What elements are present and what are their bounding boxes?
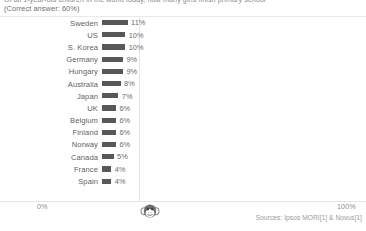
bar-track: 8%: [102, 78, 334, 90]
bar-track: 6%: [102, 102, 334, 114]
bar-rows: Sweden11%US10%S. Korea10%Germany9%Hungar…: [0, 17, 366, 188]
bar-fill: [102, 44, 125, 49]
question-header: Of all 1-year-old children in the world …: [4, 0, 362, 13]
bar-row: Norway6%: [0, 139, 366, 151]
bar-fill: [102, 69, 123, 74]
bar-category-label: Japan: [0, 92, 102, 101]
bar-row: Germany9%: [0, 54, 366, 66]
correct-answer-text: (Correct answer: 60%): [4, 4, 362, 13]
x-axis-tick-min: 0%: [37, 202, 48, 211]
bar-fill: [102, 105, 116, 110]
bar-row: Hungary9%: [0, 66, 366, 78]
x-axis-tick-max: 100%: [337, 202, 356, 211]
bar-value-label: 7%: [122, 92, 133, 101]
bar-value-label: 5%: [117, 152, 128, 161]
bar-track: 4%: [102, 175, 334, 187]
bar-row: Belgium6%: [0, 115, 366, 127]
x-axis-line: [0, 201, 366, 202]
bar-value-label: 11%: [131, 18, 145, 27]
bar-track: 10%: [102, 29, 334, 41]
bar-track: 7%: [102, 90, 334, 102]
bar-track: 6%: [102, 127, 334, 139]
bar-track: 6%: [102, 115, 334, 127]
bar-row: S. Korea10%: [0, 41, 366, 53]
bar-fill: [102, 130, 116, 135]
bar-category-label: Finland: [0, 128, 102, 137]
bar-row: Japan7%: [0, 90, 366, 102]
bar-fill: [102, 179, 111, 184]
bar-category-label: Hungary: [0, 67, 102, 76]
bar-track: 10%: [102, 41, 334, 53]
bar-category-label: Australia: [0, 80, 102, 89]
bar-fill: [102, 81, 121, 86]
bar-category-label: US: [0, 31, 102, 40]
bar-track: 9%: [102, 66, 334, 78]
bar-value-label: 4%: [115, 177, 126, 186]
bar-category-label: Sweden: [0, 19, 102, 28]
bar-fill: [102, 32, 125, 37]
bar-fill: [102, 57, 123, 62]
bar-track: 6%: [102, 139, 334, 151]
bar-category-label: Germany: [0, 55, 102, 64]
bar-track: 9%: [102, 54, 334, 66]
bar-value-label: 4%: [115, 165, 126, 174]
bar-fill: [102, 93, 118, 98]
bar-category-label: S. Korea: [0, 43, 102, 52]
bar-row: Australia8%: [0, 78, 366, 90]
bar-row: Canada5%: [0, 151, 366, 163]
bar-category-label: Spain: [0, 177, 102, 186]
bar-track: 11%: [102, 17, 334, 29]
bar-fill: [102, 166, 111, 171]
bar-category-label: Norway: [0, 140, 102, 149]
bar-value-label: 10%: [129, 31, 144, 40]
bar-value-label: 8%: [124, 79, 135, 88]
bar-fill: [102, 142, 116, 147]
bar-value-label: 6%: [119, 140, 130, 149]
bar-category-label: Belgium: [0, 116, 102, 125]
bar-value-label: 6%: [119, 116, 130, 125]
bar-category-label: Canada: [0, 153, 102, 162]
bar-row: France4%: [0, 163, 366, 175]
bar-row: Sweden11%: [0, 17, 366, 29]
source-note: Sources: Ipsos MORI[1] & Novus[1]: [256, 213, 362, 222]
bar-category-label: France: [0, 165, 102, 174]
bar-row: Finland6%: [0, 127, 366, 139]
bar-category-label: UK: [0, 104, 102, 113]
bar-fill: [102, 20, 128, 25]
bar-track: 4%: [102, 163, 334, 175]
bar-track: 5%: [102, 151, 334, 163]
bar-value-label: 6%: [119, 128, 130, 137]
bar-value-label: 9%: [126, 55, 137, 64]
bar-fill: [102, 154, 114, 159]
bar-row: UK6%: [0, 102, 366, 114]
bar-value-label: 9%: [126, 67, 137, 76]
bar-chart: Sweden11%US10%S. Korea10%Germany9%Hungar…: [0, 17, 366, 201]
bar-fill: [102, 118, 116, 123]
bar-value-label: 10%: [129, 43, 144, 52]
bar-value-label: 6%: [119, 104, 130, 113]
chimp-icon: [140, 203, 160, 220]
bar-row: Spain4%: [0, 175, 366, 187]
bar-row: US10%: [0, 29, 366, 41]
